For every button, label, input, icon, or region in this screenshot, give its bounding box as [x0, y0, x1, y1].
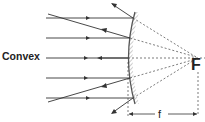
convex-label: Convex: [2, 50, 40, 62]
reflected-arrow-icons: [97, 3, 117, 114]
reflected-rays: [48, 4, 133, 113]
focal-point-label: F: [191, 56, 201, 74]
focal-length-label: f: [158, 108, 161, 120]
convex-mirror-diagram: Convex F f: [0, 0, 205, 122]
